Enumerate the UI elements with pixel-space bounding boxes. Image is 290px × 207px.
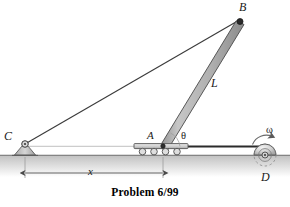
label-bar-length: L (211, 77, 218, 89)
label-angular-velocity: ω (266, 125, 273, 136)
mechanism-diagram (0, 0, 290, 207)
label-point-d: D (261, 171, 270, 183)
cart-wheels (139, 148, 180, 155)
label-point-b: B (239, 1, 246, 13)
label-point-c: C (4, 130, 12, 142)
ground-line (0, 155, 290, 177)
figure-container: B C A D L θ ω x Problem 6/99 (0, 0, 290, 207)
label-point-a: A (147, 130, 154, 141)
rigid-bar-ab (159, 21, 244, 150)
omega-rotation-arrow (253, 135, 273, 144)
label-distance-x: x (88, 166, 93, 177)
figure-caption: Problem 6/99 (0, 186, 290, 198)
pin-joint-b (237, 19, 243, 25)
pin-support-c (12, 141, 38, 156)
label-angle-theta: θ (181, 131, 186, 142)
